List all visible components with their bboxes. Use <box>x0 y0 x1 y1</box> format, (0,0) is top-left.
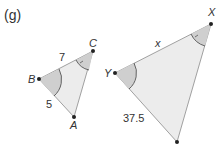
vertex-A-label: A <box>69 119 77 131</box>
side-Y-bottom-label: 37.5 <box>123 112 144 124</box>
side-BA-label: 5 <box>46 98 52 110</box>
similar-triangles-diagram: (g) B C A 7 5 Y X x 37.5 <box>0 0 222 147</box>
point-Y <box>113 71 117 75</box>
vertex-C-label: C <box>89 37 97 49</box>
large-triangle: Y X x 37.5 <box>104 6 216 144</box>
point-B <box>37 77 41 81</box>
point-C <box>91 49 95 53</box>
side-BC-label: 7 <box>59 51 65 63</box>
vertex-X-label: X <box>207 6 216 18</box>
vertex-Y-label: Y <box>104 67 112 79</box>
point-bottom <box>175 140 179 144</box>
side-YX-label: x <box>154 37 161 49</box>
vertex-B-label: B <box>28 73 35 85</box>
point-X <box>209 22 213 26</box>
part-label: (g) <box>4 7 21 23</box>
small-triangle: B C A 7 5 <box>28 37 97 131</box>
